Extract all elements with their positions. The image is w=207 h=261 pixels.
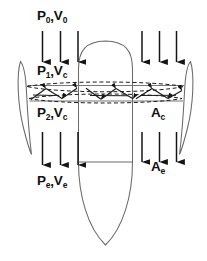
label-disk-upper-pressure-velocity: P1,Vc xyxy=(37,64,67,78)
label-ac-base: A xyxy=(151,105,161,120)
label-upstream-pressure-velocity: P0,V0 xyxy=(37,9,67,23)
down-arrow-icon-downstream-left xyxy=(43,132,79,165)
label-vc2-sub: c xyxy=(63,112,67,122)
down-arrow-icon-downstream-right xyxy=(142,132,177,162)
airfoil-blade-icon-right xyxy=(180,62,193,155)
label-exit-pressure-velocity: Pe,Ve xyxy=(37,174,67,188)
airfoil-blade-icon-left xyxy=(18,62,31,155)
diagram-vector-layer xyxy=(0,0,207,261)
label-p2-base: P xyxy=(37,105,46,120)
label-peve-comma: , xyxy=(50,174,54,189)
label-p0-base: P xyxy=(37,8,46,23)
label-ac-sub: c xyxy=(161,112,165,122)
label-vc2-base: V xyxy=(54,105,63,120)
label-area-disk: Ac xyxy=(151,106,165,120)
centerbody-icon xyxy=(79,41,133,245)
label-pe-base: P xyxy=(37,173,46,188)
down-arrow-icon-upstream-right xyxy=(142,31,177,62)
label-v0-sub: 0 xyxy=(63,15,67,25)
label-ve-sub: e xyxy=(63,180,67,190)
label-area-exit: Ae xyxy=(151,160,165,174)
flow-vector-group xyxy=(31,88,182,99)
label-vc1-sub: c xyxy=(63,70,67,80)
label-v0-base: V xyxy=(54,8,63,23)
diagram-canvas: P0,V0 P1,Vc P2,Vc Pe,Ve Ac Ae xyxy=(0,0,207,261)
label-p2vc-comma: , xyxy=(50,106,54,121)
label-p1-base: P xyxy=(37,63,46,78)
label-vc1-base: V xyxy=(54,63,63,78)
down-arrow-icon-upstream-left xyxy=(43,31,79,62)
label-disk-lower-pressure-velocity: P2,Vc xyxy=(37,106,67,120)
label-p1vc-comma: , xyxy=(50,64,54,79)
label-p0v0-comma: , xyxy=(50,9,54,24)
label-ae-base: A xyxy=(151,159,161,174)
label-ve-base: V xyxy=(54,173,63,188)
label-ae-sub: e xyxy=(161,166,165,176)
